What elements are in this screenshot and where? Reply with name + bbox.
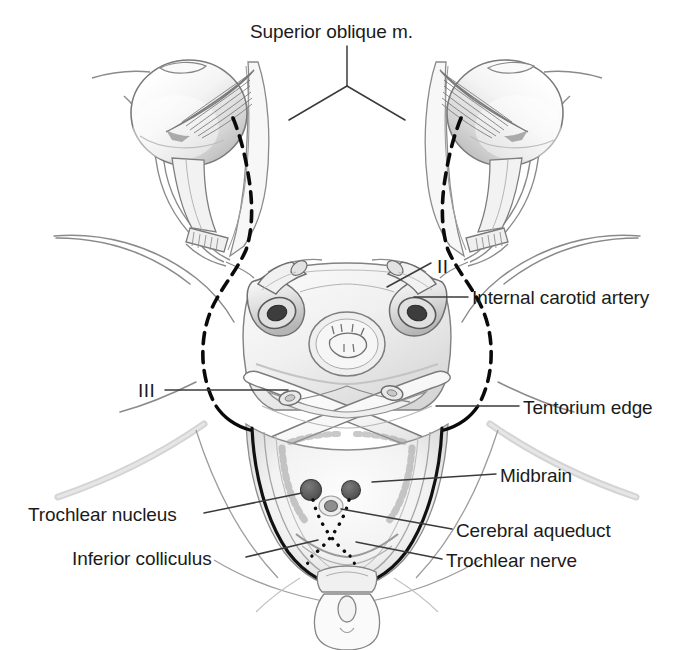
label-oculomotor-nerve-III: III bbox=[138, 381, 155, 400]
leader-superior-oblique-left bbox=[289, 86, 347, 120]
cerebral-aqueduct-opening bbox=[319, 496, 343, 516]
left-optic-nerve bbox=[172, 158, 216, 232]
leader-superior-oblique-right bbox=[347, 86, 405, 120]
left-trochlear-nucleus bbox=[301, 480, 322, 501]
right-trochlear-nucleus bbox=[342, 481, 361, 500]
petrous-ridge-right bbox=[490, 424, 636, 497]
right-orbit-group bbox=[425, 60, 602, 278]
pituitary-fossa bbox=[309, 312, 385, 376]
label-trochlear-nucleus: Trochlear nucleus bbox=[28, 505, 177, 524]
anatomical-figure-trochlear-nerve: Superior oblique m. II Internal carotid … bbox=[0, 0, 694, 650]
left-orbit-group bbox=[92, 60, 269, 278]
label-optic-nerve-II: II bbox=[437, 257, 449, 276]
label-tentorium-edge: Tentorium edge bbox=[523, 398, 653, 417]
left-optic-canal-ring bbox=[186, 228, 228, 252]
left-internal-carotid-artery bbox=[247, 258, 310, 336]
label-inferior-colliculus: Inferior colliculus bbox=[72, 549, 212, 568]
label-internal-carotid-artery: Internal carotid artery bbox=[472, 288, 649, 307]
right-optic-nerve bbox=[478, 158, 522, 232]
label-trochlear-nerve: Trochlear nerve bbox=[446, 551, 577, 570]
right-optic-canal-ring bbox=[466, 228, 508, 252]
petrous-ridge-left bbox=[58, 424, 204, 497]
foramen-magnum-region bbox=[256, 566, 438, 650]
label-superior-oblique-muscle: Superior oblique m. bbox=[250, 22, 413, 41]
label-midbrain: Midbrain bbox=[500, 466, 572, 485]
label-cerebral-aqueduct: Cerebral aqueduct bbox=[456, 521, 611, 540]
midbrain-cross-section bbox=[246, 424, 448, 589]
